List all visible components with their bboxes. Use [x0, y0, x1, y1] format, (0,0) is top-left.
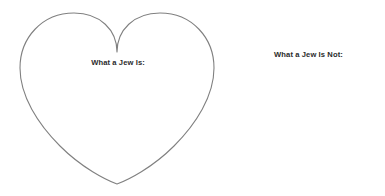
not-heading-label: What a Jew Is Not: [232, 50, 385, 60]
worksheet-canvas: What a Jew Is: What a Jew Is Not: [0, 0, 385, 196]
heart-caption-label: What a Jew Is: [34, 58, 202, 68]
heart-panel: What a Jew Is: [0, 0, 232, 196]
not-panel: What a Jew Is Not: [232, 0, 385, 196]
heart-outline-icon [0, 0, 232, 196]
